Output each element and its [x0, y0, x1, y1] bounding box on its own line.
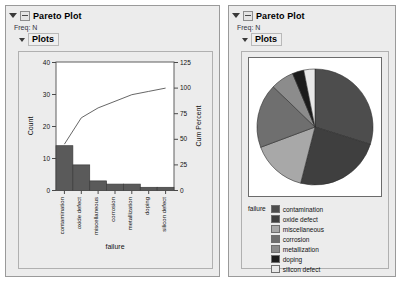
- left-plots-outline-row[interactable]: Plots: [6, 33, 219, 46]
- y2-tick-0: 0: [180, 187, 184, 194]
- x-axis-label: failure: [105, 243, 124, 250]
- disclosure-triangle-icon[interactable]: [9, 13, 17, 18]
- plots-disclosure-triangle-icon[interactable]: [242, 38, 248, 42]
- right-panel-freq-label: Freq: N: [237, 24, 260, 31]
- y-tick-10: 10: [43, 155, 51, 162]
- left-plots-label: Plots: [28, 33, 59, 46]
- legend-item[interactable]: metallization: [271, 244, 324, 254]
- y2-tick-75: 75: [180, 110, 188, 117]
- right-plots-label: Plots: [251, 33, 282, 46]
- bar-corrosion: [107, 184, 124, 190]
- x-tick-contamination: contamination: [59, 197, 65, 234]
- legend-item[interactable]: contamination: [271, 204, 324, 214]
- legend-item[interactable]: oxide defect: [271, 214, 324, 224]
- left-panel-title: Pareto Plot: [33, 11, 82, 21]
- pie-chart-frame: [248, 57, 382, 197]
- pareto-bar-chart: 40 30 20 10 0 Count 125 100 75 50: [19, 52, 212, 268]
- y-tick-20: 20: [43, 123, 51, 130]
- y-axis-label: Count: [27, 117, 34, 136]
- y-tick-30: 30: [43, 91, 51, 98]
- legend-label-silicon-defect: silicon defect: [283, 266, 321, 273]
- panel-menu-icon[interactable]: [243, 11, 253, 21]
- legend-label-metallization: metallization: [283, 246, 319, 253]
- x-tick-metallization: metallization: [127, 197, 133, 230]
- legend-title: failure: [248, 205, 266, 212]
- x-tick-miscellaneous: miscellaneous: [93, 197, 99, 235]
- right-plots-outline-row[interactable]: Plots: [229, 33, 395, 46]
- legend-label-miscellaneous: miscellaneous: [283, 226, 324, 233]
- legend-swatch-contamination: [271, 205, 280, 213]
- right-panel-title: Pareto Plot: [256, 11, 305, 21]
- legend-swatch-doping: [271, 255, 280, 263]
- right-plot-container: failure contamination oxide defect misce…: [241, 51, 389, 269]
- y2-tick-100: 100: [180, 84, 191, 91]
- bar-silicon-defect: [157, 187, 174, 190]
- pie-legend: failure contamination oxide defect misce…: [248, 204, 386, 274]
- right-panel-freq-row: Freq: N: [229, 22, 395, 33]
- bar-metallization: [123, 184, 140, 190]
- right-panel-title-row[interactable]: Pareto Plot: [229, 9, 395, 22]
- y2-tick-25: 25: [180, 161, 188, 168]
- legend-label-contamination: contamination: [283, 206, 323, 213]
- x-tick-corrosion: corrosion: [110, 197, 116, 222]
- panel-menu-icon[interactable]: [20, 11, 30, 21]
- legend-label-oxide-defect: oxide defect: [283, 216, 318, 223]
- bar-doping: [140, 187, 157, 190]
- x-tick-doping: doping: [144, 197, 150, 215]
- pareto-plot-panel-left: Pareto Plot Freq: N Plots 40 30 20: [5, 5, 220, 277]
- x-tick-silicon-defect: silicon defect: [161, 197, 167, 232]
- disclosure-triangle-icon[interactable]: [232, 13, 240, 18]
- left-panel-freq-row: Freq: N: [6, 22, 219, 33]
- pie-chart: [249, 58, 381, 196]
- legend-swatch-oxide-defect: [271, 215, 280, 223]
- legend-label-corrosion: corrosion: [283, 236, 310, 243]
- bar-miscellaneous: [90, 181, 107, 191]
- plots-disclosure-triangle-icon[interactable]: [19, 38, 25, 42]
- legend-item[interactable]: corrosion: [271, 234, 324, 244]
- pareto-plot-panel-right: Pareto Plot Freq: N Plots: [228, 5, 396, 277]
- legend-label-doping: doping: [283, 256, 303, 263]
- legend-swatch-corrosion: [271, 235, 280, 243]
- y-tick-0: 0: [46, 187, 50, 194]
- y2-tick-125: 125: [180, 59, 191, 66]
- y2-tick-50: 50: [180, 135, 188, 142]
- legend-item[interactable]: silicon defect: [271, 264, 324, 274]
- legend-swatch-metallization: [271, 245, 280, 253]
- legend-item[interactable]: doping: [271, 254, 324, 264]
- legend-swatch-silicon-defect: [271, 265, 280, 273]
- legend-swatch-miscellaneous: [271, 225, 280, 233]
- y2-axis-label: Cum Percent: [195, 106, 202, 147]
- x-tick-oxide-defect: oxide defect: [76, 197, 82, 230]
- bar-contamination: [56, 146, 73, 191]
- y-tick-40: 40: [43, 59, 51, 66]
- legend-item[interactable]: miscellaneous: [271, 224, 324, 234]
- legend-entries: contamination oxide defect miscellaneous…: [271, 204, 324, 274]
- left-plot-container: 40 30 20 10 0 Count 125 100 75 50: [18, 51, 213, 269]
- left-panel-freq-label: Freq: N: [14, 24, 37, 31]
- left-panel-title-row[interactable]: Pareto Plot: [6, 9, 219, 22]
- bar-oxide-defect: [73, 165, 90, 191]
